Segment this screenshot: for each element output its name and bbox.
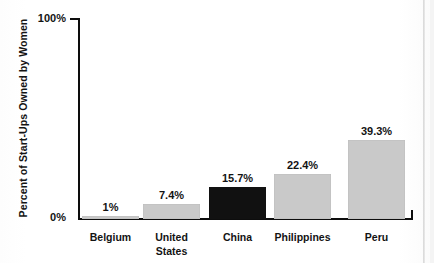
y-axis-line <box>78 18 80 219</box>
bar-fill <box>209 187 266 219</box>
x-axis-label-philippines: Philippines <box>274 231 331 245</box>
bar-fill <box>274 174 331 219</box>
bar-value-label: 22.4% <box>260 159 345 171</box>
x-axis-end-tick <box>411 210 413 220</box>
x-axis-label-peru: Peru <box>348 231 405 245</box>
bar-value-label: 39.3% <box>334 125 419 137</box>
x-axis-category-row: Belgium United States China Philippines … <box>0 224 434 263</box>
y-axis-tick-label-100: 100% <box>20 12 66 24</box>
bar-belgium[interactable]: 1% <box>82 216 139 219</box>
y-axis-title: Percent of Start-Ups Owned by Women <box>17 3 29 233</box>
x-axis-label-belgium: Belgium <box>82 231 139 245</box>
bar-fill <box>82 216 139 219</box>
bar-value-label: 15.7% <box>195 172 280 184</box>
x-axis-label-china: China <box>209 231 266 245</box>
chart-page: Percent of Start-Ups Owned by Women 100%… <box>0 0 434 263</box>
bar-value-label: 1% <box>68 201 153 213</box>
x-axis-label-united-states: United States <box>143 231 200 258</box>
bar-china[interactable]: 15.7% <box>209 187 266 219</box>
bar-value-label: 7.4% <box>129 189 214 201</box>
bar-philippines[interactable]: 22.4% <box>274 174 331 219</box>
y-axis-tick-label-0: 0% <box>20 211 66 223</box>
bar-united-states[interactable]: 7.4% <box>143 204 200 219</box>
bar-fill <box>143 204 200 219</box>
bar-fill <box>348 140 405 219</box>
bar-peru[interactable]: 39.3% <box>348 140 405 219</box>
